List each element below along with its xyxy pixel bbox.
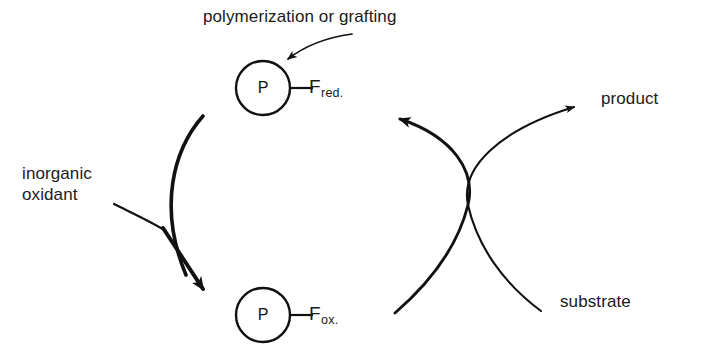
substrate-to-reduced-arrow — [395, 119, 470, 313]
species-symbol-f-oxidized: F — [309, 303, 321, 324]
polymerization-arrow — [288, 34, 352, 59]
node-label-p-oxidized: P — [253, 306, 273, 324]
inorganic-oxidant-label-line2: oxidant — [22, 184, 92, 205]
inorganic-oxidant-label: inorganic oxidant — [22, 163, 92, 205]
product-label: product — [601, 88, 658, 109]
species-subscript-reduced: red. — [321, 86, 343, 100]
species-label-f-reduced: Fred. — [309, 76, 343, 98]
node-label-p-reduced: P — [253, 79, 273, 97]
oxidized-to-product-arrow — [467, 107, 574, 311]
substrate-label: substrate — [560, 291, 631, 312]
polymerization-label: polymerization or grafting — [203, 6, 396, 27]
inorganic-oxidant-label-line1: inorganic — [22, 164, 92, 183]
species-subscript-oxidized: ox. — [321, 313, 338, 327]
species-label-f-oxidized: Fox. — [309, 303, 338, 325]
oxidation-arc-arrowhead — [163, 228, 203, 289]
species-symbol-f-reduced: F — [309, 76, 321, 97]
reaction-cycle-diagram: polymerization or grafting inorganic oxi… — [0, 0, 703, 349]
inorganic-oxidant-feed-line — [114, 204, 166, 231]
